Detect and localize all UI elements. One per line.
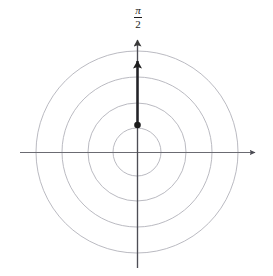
polar-graph-figure: π 2: [0, 0, 273, 276]
fraction-denominator: 2: [134, 19, 142, 31]
fraction-numerator: π: [134, 5, 142, 17]
pi-over-two-fraction: π 2: [134, 5, 142, 30]
polar-plot-canvas: [0, 0, 273, 276]
plotted-point-marker: [134, 122, 141, 129]
vertical-axis-label: π 2: [125, 5, 151, 31]
